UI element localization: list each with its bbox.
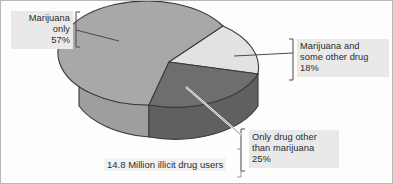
leader-bracket-marijuana-and-other — [289, 39, 293, 80]
leader-bracket-caption — [237, 149, 241, 177]
chart-caption-total-users: 14.8 Million illicit drug users — [104, 158, 226, 171]
leader-bracket-only-other — [241, 129, 245, 171]
label-marijuana-only: Marijuana only 57% — [11, 11, 73, 49]
label-marijuana-and-some-other-drug: Marijuana and some other drug 18% — [297, 39, 389, 77]
pie-chart-figure: Marijuana only 57% Marijuana and some ot… — [0, 0, 393, 184]
label-only-drug-other-than-marijuana: Only drug other than marijuana 25% — [249, 130, 339, 168]
